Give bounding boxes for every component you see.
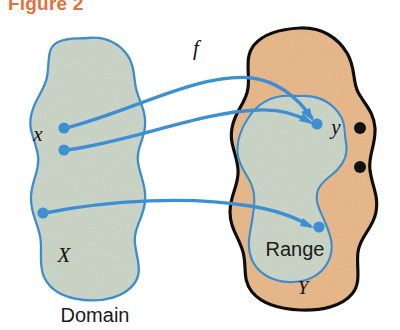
label-y-point: y xyxy=(329,115,341,139)
label-set-x: X xyxy=(57,243,72,267)
label-function-f: f xyxy=(193,36,202,60)
figure-container: Figure 2 xyxy=(0,0,400,330)
label-x-point: x xyxy=(32,122,43,146)
codomain-extra-point-1 xyxy=(354,122,366,134)
domain-point-third xyxy=(37,207,48,218)
domain-shape-x xyxy=(30,38,145,301)
function-mapping-diagram: x f y Range Y X Domain xyxy=(0,0,400,330)
domain-point-x-upper xyxy=(58,122,69,133)
codomain-extra-point-2 xyxy=(354,161,366,173)
domain-point-x-lower xyxy=(58,144,69,155)
label-domain-caption: Domain xyxy=(61,304,130,326)
label-range: Range xyxy=(266,238,325,260)
range-point-lower xyxy=(313,221,324,232)
range-point-y xyxy=(311,118,322,129)
